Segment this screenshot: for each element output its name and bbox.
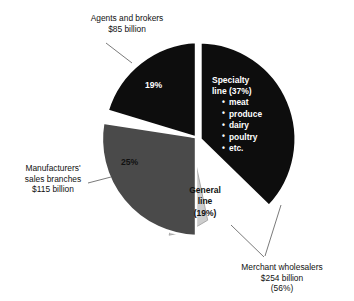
label-general-line1: General [181, 185, 229, 196]
label-agents-line2: $85 billion [62, 24, 192, 35]
pie-chart-svg [0, 0, 354, 301]
label-general-line3: (19%) [181, 208, 229, 219]
label-merchant-line3: (56%) [212, 283, 352, 294]
label-specialty-head1: Specialty [212, 75, 262, 86]
label-specialty-bullet-produce: produce [222, 109, 262, 120]
pie-chart-figure: Agents and brokers $85 billion Manufactu… [0, 0, 354, 301]
label-manufacturers-line3: $115 billion [1, 184, 105, 195]
label-specialty-bullet-poultry: poultry [222, 132, 262, 143]
leader-line-merchant-lower [231, 225, 264, 257]
label-specialty-bullet-dairy: dairy [222, 120, 262, 131]
label-agents-and-brokers: Agents and brokers $85 billion [62, 13, 192, 34]
label-agents-line1: Agents and brokers [62, 13, 192, 24]
slice-percent-agents-brokers: 19% [145, 80, 162, 91]
label-specialty-head2: line (37%) [212, 86, 262, 97]
label-specialty-bullet-list: meat produce dairy poultry etc. [212, 97, 262, 154]
label-specialty-line: Specialty line (37%) meat produce dairy … [212, 75, 262, 154]
label-merchant-line1: Merchant wholesalers [212, 262, 352, 273]
leader-line-merchant-upper [265, 205, 281, 256]
label-specialty-bullet-etc: etc. [222, 143, 262, 154]
label-manufacturers-line1: Manufacturers' [1, 163, 105, 174]
label-general-line2: line [181, 196, 229, 207]
label-merchant-wholesalers: Merchant wholesalers $254 billion (56%) [212, 262, 352, 294]
label-specialty-bullet-meat: meat [222, 97, 262, 108]
slice-percent-manufacturers: 25% [121, 157, 138, 168]
label-general-line: General line (19%) [181, 185, 229, 219]
label-merchant-line2: $254 billion [212, 273, 352, 284]
label-manufacturers-sales-branches: Manufacturers' sales branches $115 billi… [1, 163, 105, 195]
label-manufacturers-line2: sales branches [1, 174, 105, 185]
leader-line-agents-brokers [106, 43, 132, 63]
